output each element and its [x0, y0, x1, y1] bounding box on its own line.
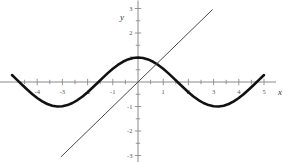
x-tick-label: -3: [60, 88, 65, 95]
y-tick-label: 2: [129, 29, 132, 36]
x-tick-label: 4: [237, 88, 241, 95]
x-tick-label: -4: [34, 88, 40, 95]
y-axis-label: y: [119, 12, 124, 22]
x-tick-label: 5: [262, 88, 265, 95]
axis-labels-group: y x: [119, 12, 282, 97]
identity-line: [61, 10, 212, 157]
plot-canvas: -4-3-2-112345321-1-2-3 y x: [0, 0, 287, 162]
x-tick-label: -1: [110, 88, 115, 95]
x-axis-label: x: [277, 87, 282, 97]
axes-group: [0, 1, 276, 163]
y-tick-label: -2: [127, 127, 132, 134]
y-tick-label: -3: [127, 152, 132, 159]
graph-figure: -4-3-2-112345321-1-2-3 y x: [0, 0, 287, 162]
y-tick-label: 3: [129, 5, 132, 12]
y-tick-label: -1: [127, 103, 132, 110]
x-tick-label: 1: [162, 88, 165, 95]
x-tick-label: 3: [212, 88, 215, 95]
